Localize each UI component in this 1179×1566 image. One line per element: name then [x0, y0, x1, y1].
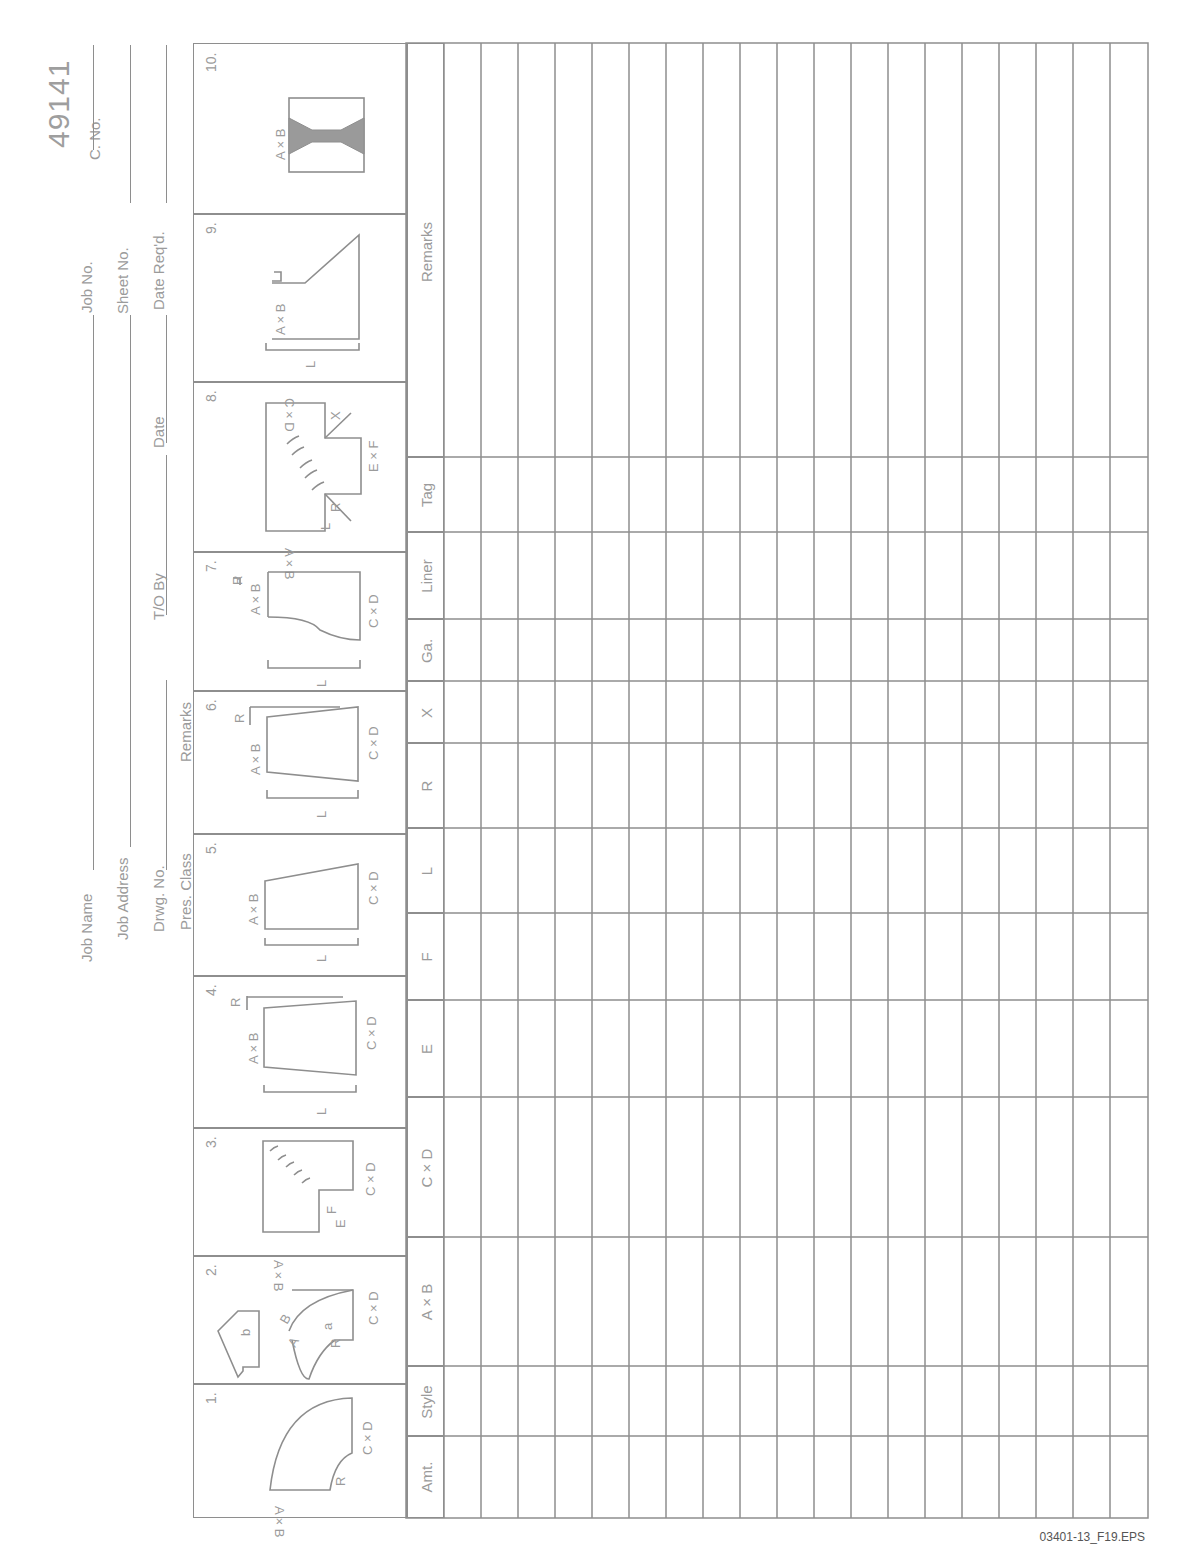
footer-file-reference: 03401-13_F19.EPS: [1040, 1530, 1145, 1544]
table-grid[interactable]: [0, 0, 1179, 1566]
